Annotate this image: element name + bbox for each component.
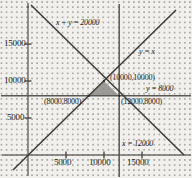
label-y-8000: y = 8000 bbox=[146, 85, 173, 93]
x-axis-tick-label-5000: 5000 bbox=[54, 158, 71, 167]
y-axis-tick-label-5000: 5000 bbox=[7, 113, 24, 122]
chart-figure: 15000 10000 5000 5000 10000 15000 x + y … bbox=[0, 0, 192, 178]
vertex-dot-left bbox=[88, 95, 90, 97]
feasible-region-shading bbox=[89, 81, 119, 96]
y-axis-tick-label-15000: 15000 bbox=[4, 39, 26, 48]
label-vertex-left: (8000,8000) bbox=[44, 98, 81, 106]
y-axis-tick-label-10000: 10000 bbox=[4, 76, 26, 85]
x-axis-tick-label-10000: 10000 bbox=[89, 158, 111, 167]
label-vertex-top: (10000,10000) bbox=[110, 74, 155, 82]
x-axis-tick-label-15000: 15000 bbox=[127, 158, 149, 167]
label-vertex-right: (12000,8000) bbox=[121, 98, 162, 106]
vertex-dot-right bbox=[118, 95, 120, 97]
label-x-12000: x = 12000 bbox=[122, 140, 153, 148]
vertex-dot-top bbox=[103, 80, 105, 82]
label-sum-line: x + y = 20000 bbox=[56, 19, 99, 27]
line-x-plus-y-equals-20000 bbox=[31, 5, 184, 155]
label-y-equals-x: y = x bbox=[139, 48, 155, 56]
